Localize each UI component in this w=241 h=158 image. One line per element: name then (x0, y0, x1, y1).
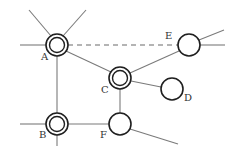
node-c (109, 67, 131, 89)
node-f (109, 113, 131, 135)
node-label-a: A (40, 51, 49, 62)
node-outer-circle (109, 113, 131, 135)
node-inner-circle (113, 71, 128, 86)
node-label-d: D (184, 92, 192, 103)
node-b (46, 113, 68, 135)
stub-edge-e (199, 30, 224, 40)
node-inner-circle (50, 117, 65, 132)
stub-edge-a (63, 10, 86, 36)
nodes-layer (46, 34, 200, 135)
node-a (46, 34, 68, 56)
edge-c-d (131, 81, 161, 87)
node-d (161, 78, 183, 100)
network-graph-diagram: ABCDEF (0, 0, 241, 158)
node-label-f: F (100, 129, 107, 140)
node-outer-circle (161, 78, 183, 100)
node-label-b: B (39, 129, 46, 140)
edge-c-e (130, 51, 179, 73)
node-inner-circle (50, 38, 65, 53)
node-outer-circle (178, 34, 200, 56)
stub-edge-a (29, 10, 51, 36)
stub-edge-f (130, 129, 178, 144)
edge-a-c (66, 51, 111, 72)
node-label-e: E (165, 30, 172, 41)
node-label-c: C (101, 84, 109, 95)
node-e (178, 34, 200, 56)
